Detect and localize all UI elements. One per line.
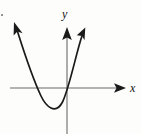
x-axis-label: x bbox=[130, 82, 135, 94]
y-axis-label: y bbox=[62, 8, 67, 20]
graph-canvas bbox=[0, 0, 141, 134]
scan-speck-icon bbox=[1, 14, 3, 16]
parabola-curve bbox=[18, 32, 82, 109]
parabola-figure: y x bbox=[0, 0, 141, 134]
